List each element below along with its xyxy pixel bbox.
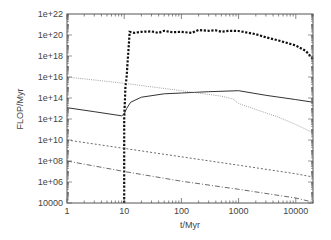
y-tick-label: 1e+22: [38, 9, 63, 19]
x-tick-label: 1: [64, 206, 69, 216]
series-dash-dot: [67, 161, 313, 202]
x-tick-label: 10000: [283, 206, 308, 216]
y-axis-label: FLOP/Myr: [15, 88, 25, 129]
series-layer: [67, 30, 313, 203]
y-tick-label: 1e+16: [38, 72, 63, 82]
y-tick-label: 1e+08: [38, 156, 63, 166]
series-thick-dashed: [124, 30, 313, 203]
y-tick-label: 1e+10: [38, 135, 63, 145]
x-tick-label: 1000: [229, 206, 249, 216]
series-solid: [67, 91, 313, 116]
plot-frame: [67, 14, 313, 203]
x-tick-label: 100: [174, 206, 189, 216]
ticks-layer: [67, 14, 313, 203]
x-tick-label: 10: [119, 206, 129, 216]
y-tick-label: 1e+18: [38, 51, 63, 61]
y-tick-label: 1e+12: [38, 114, 63, 124]
x-axis-label: t/Myr: [180, 220, 200, 230]
y-tick-label: 1e+20: [38, 30, 63, 40]
y-tick-label: 10000: [38, 198, 63, 208]
chart: 110100100010000100001e+061e+081e+101e+12…: [0, 0, 331, 240]
series-gray-dotted: [67, 77, 313, 133]
labels-layer: 110100100010000100001e+061e+081e+101e+12…: [38, 9, 309, 216]
series-fine-dashed: [67, 140, 313, 177]
y-tick-label: 1e+14: [38, 93, 63, 103]
y-tick-label: 1e+06: [38, 177, 63, 187]
